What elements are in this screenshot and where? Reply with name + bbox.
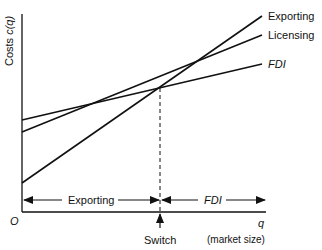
switch-label: Switch: [144, 234, 176, 246]
y-axis-label: Costs c(q): [3, 16, 15, 66]
y-axis-label-var: c(q): [3, 16, 15, 35]
exporting-line-label: Exporting: [268, 10, 314, 22]
exporting-cost-line: [22, 16, 262, 183]
licensing-line-label: Licensing: [268, 29, 314, 41]
fdi-range-label: FDI: [204, 194, 222, 206]
y-axis-label-text: Costs: [3, 38, 15, 66]
x-axis-label: q: [258, 217, 264, 229]
fdi-cost-line: [22, 64, 262, 120]
market-size-label: (market size): [207, 234, 265, 246]
exporting-range-label: Exporting: [68, 194, 114, 206]
licensing-cost-line: [22, 35, 262, 132]
fdi-line-label: FDI: [268, 58, 286, 70]
origin-label: O: [10, 215, 19, 227]
